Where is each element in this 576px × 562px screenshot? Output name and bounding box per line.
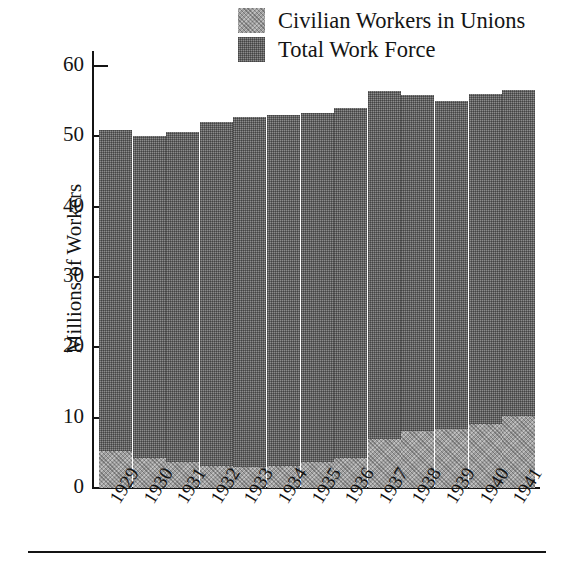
bar-1933	[233, 117, 266, 488]
y-axis-tick-label: 0	[38, 474, 84, 499]
bar-segment-total-work-force	[435, 101, 468, 429]
bar-1940	[469, 94, 502, 488]
y-axis-line	[92, 51, 94, 489]
y-axis-title-wrap: Millions of Workers	[10, 130, 40, 410]
legend-swatch-icon-union	[238, 8, 265, 33]
y-axis-tick-label: 30	[38, 263, 84, 288]
bar-segment-total-work-force	[99, 130, 132, 451]
bar-segment-total-work-force	[401, 95, 434, 431]
footer-rule	[28, 551, 546, 553]
bar-segment-total-work-force	[502, 90, 535, 416]
bar-segment-total-work-force	[200, 122, 233, 466]
y-axis-tick-label: 40	[38, 193, 84, 218]
bar-1938	[401, 95, 434, 488]
bar-segment-total-work-force	[233, 117, 266, 467]
bar-segment-total-work-force	[368, 91, 401, 438]
y-axis-tick-label: 50	[38, 122, 84, 147]
bar-1935	[301, 113, 334, 488]
y-axis-tick-label: 10	[38, 404, 84, 429]
bar-1941	[502, 90, 535, 488]
y-axis-tick-label: 60	[38, 52, 84, 77]
bar-1930	[133, 136, 166, 488]
bar-1934	[267, 115, 300, 488]
bar-segment-total-work-force	[267, 115, 300, 466]
bar-segment-total-work-force	[301, 113, 334, 462]
bar-1931	[166, 132, 199, 488]
page-artifact	[8, 0, 128, 8]
bar-segment-total-work-force	[166, 132, 199, 462]
bar-segment-total-work-force	[334, 108, 367, 459]
y-axis-tick-label: 20	[38, 333, 84, 358]
bar-1932	[200, 122, 233, 488]
bar-segment-total-work-force	[133, 136, 166, 459]
bar-1937	[368, 91, 401, 488]
bar-1939	[435, 101, 468, 488]
legend-entry-civilian-workers-in-unions: Civilian Workers in Unions	[238, 8, 525, 33]
figure-chart: Civilian Workers in Unions Total Work Fo…	[0, 0, 576, 562]
plot-area	[99, 45, 536, 488]
bar-1929	[99, 130, 132, 488]
legend-label-union: Civilian Workers in Unions	[278, 8, 525, 33]
bar-1936	[334, 108, 367, 488]
bar-segment-total-work-force	[469, 94, 502, 424]
